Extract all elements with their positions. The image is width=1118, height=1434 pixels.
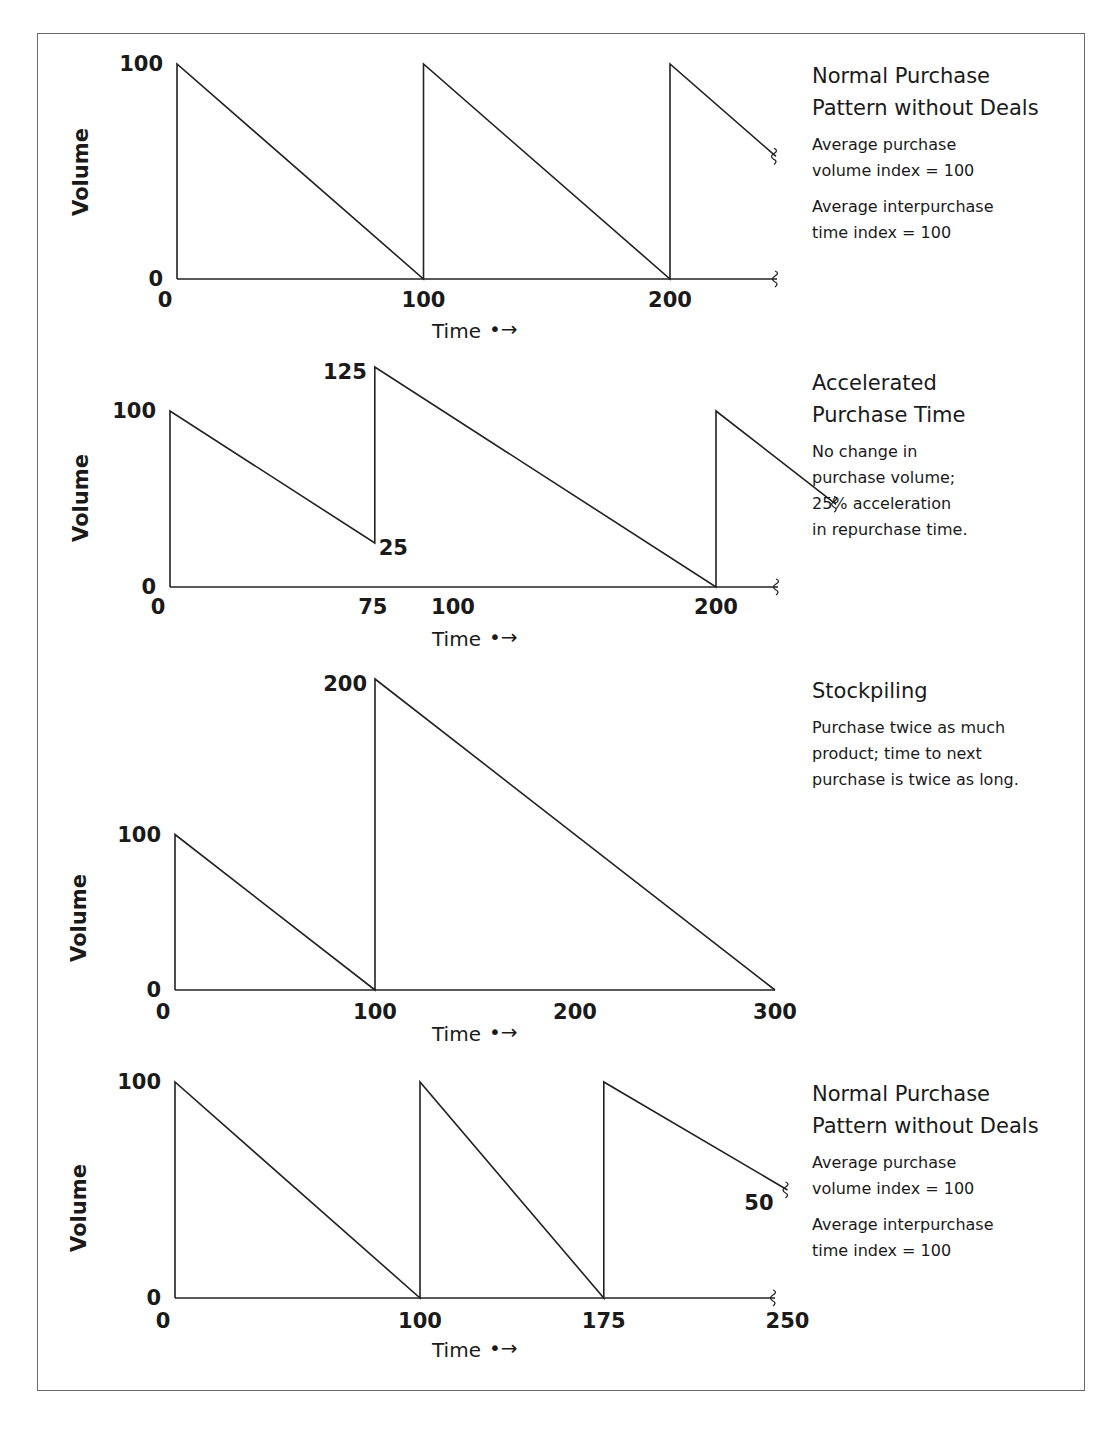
panel-3-title: Stockpiling: [812, 675, 1082, 707]
panel-1-title: Normal Purchase Pattern without Deals: [812, 60, 1082, 124]
panel-3-caption: Stockpiling Purchase twice as much produ…: [812, 675, 1082, 793]
chart-4-x-tick: 175: [582, 1309, 626, 1333]
chart-1-x-label: Time: [431, 319, 481, 343]
chart-4-y-label: Volume: [67, 1164, 91, 1252]
chart-2-x-label: Time: [431, 627, 481, 651]
chart-2-annotation: 25: [379, 536, 408, 560]
chart-4-volume-line: [175, 1082, 788, 1298]
chart-3-x-label: Time: [431, 1022, 481, 1046]
panel-4-caption: Normal Purchase Pattern without Deals Av…: [812, 1078, 1082, 1264]
chart-3-x-tick: 100: [353, 1000, 397, 1024]
chart-2-y-label: Volume: [69, 454, 93, 542]
chart-2-annotation: 125: [323, 360, 367, 384]
chart-1-volume-line: [177, 64, 776, 279]
chart-3-y-tick: 0: [146, 978, 161, 1002]
chart-4-time-arrow-icon: •→: [489, 1336, 518, 1360]
chart-2-y-tick: 100: [112, 399, 156, 423]
chart-3-x-tick: 200: [553, 1000, 597, 1024]
chart-4-y-tick: 0: [146, 1286, 161, 1310]
panel-1-caption: Normal Purchase Pattern without Deals Av…: [812, 60, 1082, 246]
chart-1-time-arrow-icon: •→: [489, 317, 518, 341]
chart-4-x-tick: 100: [398, 1309, 442, 1333]
chart-1-x-tick: 100: [402, 288, 446, 312]
chart-1-x-tick: 0: [158, 288, 173, 312]
chart-2-time-arrow-icon: •→: [489, 625, 518, 649]
chart-3-annotation: 200: [323, 672, 367, 696]
panel-1-note-1: Average purchase volume index = 100: [812, 132, 1082, 184]
chart-2-volume-line: [170, 367, 836, 587]
chart-1-x-tick: 200: [648, 288, 692, 312]
chart-1-y-tick: 100: [119, 52, 163, 76]
chart-4-annotation: 50: [744, 1191, 773, 1215]
panel-2-note-1: No change in purchase volume; 25% accele…: [812, 439, 1082, 543]
panel-2-title: Accelerated Purchase Time: [812, 367, 1082, 431]
chart-3-y-tick: 100: [117, 823, 161, 847]
chart-2-x-tick: 100: [431, 595, 475, 619]
chart-3-x-tick: 300: [753, 1000, 797, 1024]
chart-4-x-label: Time: [431, 1338, 481, 1362]
chart-4-x-tick: 250: [766, 1309, 810, 1333]
chart-4-x-tick: 0: [156, 1309, 171, 1333]
panel-4-note-1: Average purchase volume index = 100: [812, 1150, 1082, 1202]
chart-2-x-tick: 75: [358, 595, 387, 619]
chart-3-time-arrow-icon: •→: [489, 1020, 518, 1044]
chart-3-x-tick: 0: [156, 1000, 171, 1024]
panel-4-title: Normal Purchase Pattern without Deals: [812, 1078, 1082, 1142]
chart-2-x-tick: 200: [694, 595, 738, 619]
panel-2-caption: Accelerated Purchase Time No change in p…: [812, 367, 1082, 543]
panel-1-note-2: Average interpurchase time index = 100: [812, 194, 1082, 246]
panel-3-note-1: Purchase twice as much product; time to …: [812, 715, 1082, 793]
chart-3-y-label: Volume: [67, 874, 91, 962]
chart-2-x-tick: 0: [151, 595, 166, 619]
chart-4-y-tick: 100: [117, 1070, 161, 1094]
panel-4-note-2: Average interpurchase time index = 100: [812, 1212, 1082, 1264]
chart-3-volume-line: [175, 679, 775, 990]
chart-1-y-label: Volume: [69, 128, 93, 216]
